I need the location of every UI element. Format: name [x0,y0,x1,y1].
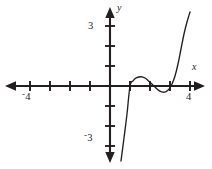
y-axis-up-arrowhead [105,7,114,18]
y-axis-tick-label-neg3: -3 [84,133,93,144]
graph-figure: -4 4 3 -3 y x [0,0,212,169]
x-axis-tick-label-neg4-value: 4 [25,91,30,102]
x-axis-left-arrowhead [5,81,16,91]
y-axis-tick-label-neg3-value: 3 [87,132,92,143]
y-axis-down-arrowhead [105,152,114,163]
y-axis-tick-label-3: 3 [88,21,93,32]
x-axis-tick-label-4: 4 [186,92,191,103]
x-axis-tick-label-neg4: -4 [22,92,31,103]
x-axis-name-label: x [192,62,196,72]
x-axis-right-arrowhead [194,81,205,91]
y-axis-name-label: y [117,3,121,13]
minus-sign-glyph: - [22,89,25,99]
minus-sign-glyph: - [84,130,87,140]
coordinate-plane [0,0,212,169]
